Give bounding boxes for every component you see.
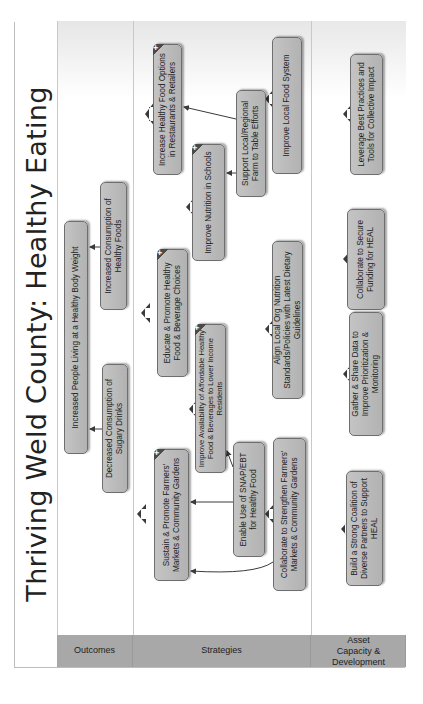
expand-icon[interactable]: + [157,249,168,260]
expand-icon[interactable]: + [192,144,203,155]
node-label: Increased Consumption of Healthy Foods [104,187,124,305]
row-label-asset-capacity: Asset Capacity & Development [311,635,406,667]
row-label-text: Outcomes [74,645,115,656]
node-label: Improve Nutrition in Schools [204,151,214,253]
node-outcome-healthy-foods[interactable]: Increased Consumption of Healthy Foods [100,182,127,310]
node-strategy-schools[interactable]: Improve Nutrition in Schools + [192,144,225,261]
node-label: Sustain & Promote Farmers' Markets & Com… [162,454,182,576]
node-strategy-farm-to-table[interactable]: Support Local/Regional Farm to Table Eff… [236,90,266,197]
node-strategy-restaurants-retailers[interactable]: Increase Healthy Food Options in Restaur… [153,44,182,175]
node-label: Decreased Consumption of Sugary Drinks [105,369,125,488]
node-label: Collaborate to Strengthen Farmers' Marke… [280,443,300,586]
node-label: Gather & Share Data to Improve Prioritiz… [351,317,381,431]
node-strategy-dietary-guidelines[interactable]: Align Local Org Nutrition Standards/Poli… [272,241,303,399]
node-outcome-healthy-body-weight[interactable]: Increased People Living at a Healthy Bod… [64,221,88,454]
node-label: Increase Healthy Food Options in Restaur… [158,49,178,170]
node-label: Collaborate to Secure Funding for HEAL [356,214,376,305]
node-asset-secure-funding[interactable]: Collaborate to Secure Funding for HEAL [347,209,385,310]
node-strategy-farmers-markets[interactable]: Sustain & Promote Farmers' Markets & Com… [154,449,189,581]
expand-icon[interactable]: + [153,44,164,55]
node-asset-gather-data[interactable]: Gather & Share Data to Improve Prioritiz… [349,312,383,436]
node-asset-best-practices[interactable]: Leverage Best Practices and Tools for Co… [350,54,383,175]
node-label: Improve Availability of Affordable Healt… [197,329,224,468]
node-strategy-strengthen-markets[interactable]: Collaborate to Strengthen Farmers' Marke… [273,438,306,591]
node-asset-coalition[interactable]: Build a Strong Coalition of Diverse Part… [346,471,383,586]
node-outcome-sugary-drinks[interactable]: Decreased Consumption of Sugary Drinks [102,364,128,493]
row-label-text: Strategies [201,646,242,657]
node-label: Enable Use of SNAP/EBT for Healthy Food [239,447,259,552]
node-strategy-local-food-system[interactable]: Improve Local Food System [272,37,302,174]
node-strategy-educate-promote[interactable]: Educate & Promote Healthy Food & Beverag… [157,249,188,377]
node-label: Improve Local Food System [282,55,292,157]
node-strategy-availability[interactable]: Improve Availability of Affordable Healt… [195,324,226,473]
node-label: Build a Strong Coalition of Diverse Part… [350,476,380,581]
node-label: Leverage Best Practices and Tools for Co… [357,59,377,170]
node-label: Support Local/Regional Farm to Table Eff… [241,95,261,192]
page-title: Thriving Weld County: Healthy Eating [15,21,57,667]
node-label: Increased People Living at a Healthy Bod… [71,247,81,429]
node-label: Align Local Org Nutrition Standards/Poli… [273,246,303,394]
row-label-outcomes: Outcomes [57,635,133,667]
node-strategy-snap-ebt[interactable]: Enable Use of SNAP/EBT for Healthy Food [233,442,265,557]
row-label-text: Asset Capacity & Development [331,635,384,668]
expand-icon[interactable]: + [195,324,206,335]
row-label-strategies: Strategies [133,635,311,667]
node-label: Educate & Promote Healthy Food & Beverag… [163,254,183,372]
expand-icon[interactable]: + [154,449,165,460]
diagram-page: Thriving Weld County: Healthy Eating Out… [14,22,405,668]
